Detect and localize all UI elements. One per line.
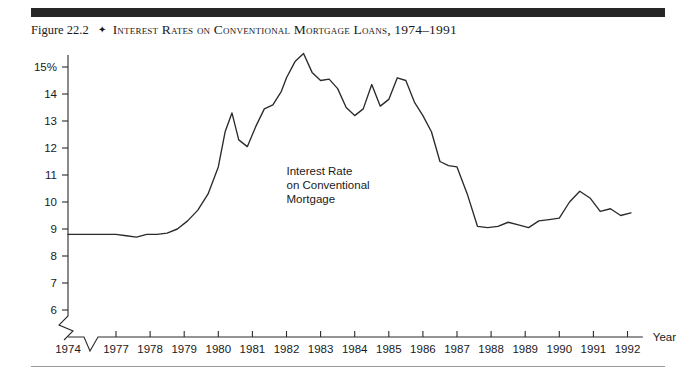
x-axis-tick-label: 1986 [410,343,436,355]
y-axis-tick-label: 11 [45,169,57,181]
x-axis-tick-label: 1982 [274,343,300,355]
series-annotation-line: Mortgage [287,193,336,205]
figure-page: Figure 22.2✦Interest Rates on Convention… [0,0,695,377]
x-axis-tick-label: 1991 [581,343,607,355]
series-line-interest-rate [68,54,631,238]
decorative-bottom-rule [31,366,665,367]
x-axis-tick-label: 1980 [206,343,232,355]
y-axis-line [59,55,73,340]
x-axis-tick-label: 1990 [547,343,573,355]
y-axis-tick-label: 8 [51,250,57,262]
y-axis-tick-label: 14 [44,88,57,100]
x-axis-tick-label: 1985 [376,343,402,355]
y-axis-tick-label: 13 [44,115,57,127]
x-axis-tick-label: 1988 [478,343,504,355]
y-axis-tick-label: 15% [34,61,57,73]
chart-plot-area: 6789101112131415%19741977197819791980198… [0,0,695,377]
y-axis-tick-label: 7 [51,277,57,289]
x-axis-tick-label: 1984 [342,343,368,355]
x-axis-tick-label: 1974 [55,343,81,355]
x-axis-tick-label: 1977 [103,343,129,355]
x-axis-tick-label: 1981 [240,343,266,355]
x-axis-tick-label: 1979 [171,343,197,355]
series-annotation-line: Interest Rate [287,165,353,177]
x-axis-title: Year [653,331,676,343]
y-axis-tick-label: 10 [44,196,57,208]
x-axis-tick-label: 1983 [308,343,334,355]
y-axis-tick-label: 6 [51,304,57,316]
line-chart: 6789101112131415%19741977197819791980198… [0,0,695,377]
series-annotation-line: on Conventional [287,179,370,191]
x-axis-tick-label: 1989 [512,343,538,355]
x-axis-tick-label: 1987 [444,343,470,355]
x-axis-tick-label: 1978 [137,343,163,355]
y-axis-tick-label: 9 [51,223,57,235]
y-axis-tick-label: 12 [44,142,57,154]
x-axis-tick-label: 1992 [615,343,641,355]
